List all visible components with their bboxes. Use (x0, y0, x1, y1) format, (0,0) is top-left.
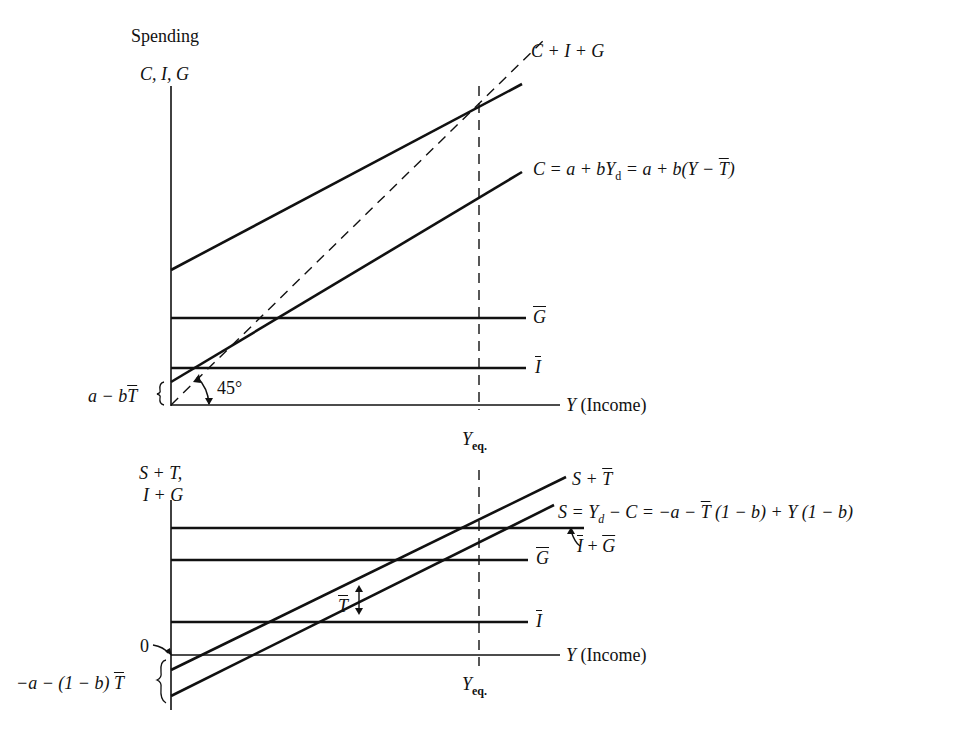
lower-ylabel-st: S + T, (139, 464, 182, 482)
upper-g-label: G (533, 308, 546, 326)
cig-line-label: C + I + G (531, 42, 604, 60)
lower-i-label: I (536, 612, 542, 630)
upper-xaxis-label: Y (Income) (566, 396, 646, 414)
keynesian-cross-figure: Spending C, I, G C + I + G C = a + bYd =… (0, 0, 958, 740)
zero-pointer (153, 645, 168, 653)
consumption-line-label: C = a + bYd = a + b(Y − T) (533, 160, 735, 182)
lower-intercept-brace (157, 660, 166, 703)
zero-label: 0 (140, 637, 149, 655)
saving-line (171, 505, 554, 696)
upper-yeq-label: Yeq. (462, 430, 487, 452)
lower-intercept-label: −a − (1 − b) T (16, 674, 124, 692)
s-plus-t-label: S + T (572, 470, 612, 488)
diagram-canvas (0, 0, 958, 740)
upper-intercept-label: a − bT (88, 387, 137, 405)
forty-five-degree-line (171, 40, 544, 405)
cig-line (171, 84, 522, 270)
upper-i-label: I (535, 358, 541, 376)
lower-g-label: G (536, 549, 549, 567)
consumption-line (171, 172, 522, 382)
saving-line-label: S = Yd − C = −a − T (1 − b) + Y (1 − b) (558, 503, 853, 525)
angle-label: 45° (217, 379, 242, 397)
ig-line-label: I + G (577, 537, 615, 555)
upper-ylabel-spending: Spending (131, 27, 199, 45)
s-plus-t-line (171, 477, 566, 670)
lower-yeq-label: Yeq. (462, 675, 487, 697)
lower-ylabel-ig: I + G (143, 486, 183, 504)
t-gap-label: T (338, 597, 348, 615)
upper-ylabel-cig: C, I, G (140, 65, 189, 83)
upper-intercept-brace (157, 382, 164, 405)
lower-xaxis-label: Y (Income) (566, 646, 646, 664)
